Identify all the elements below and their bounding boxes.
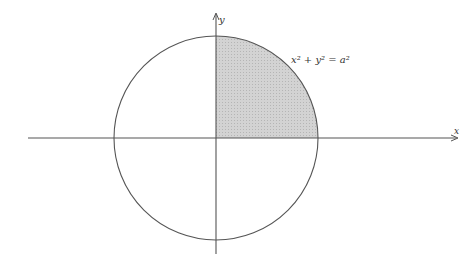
diagram-canvas: y x x² + y² = a² — [0, 0, 466, 264]
shaded-quadrant — [216, 36, 318, 138]
y-axis-label: y — [218, 14, 225, 25]
equation-label: x² + y² = a² — [291, 54, 350, 65]
x-axis-label: x — [454, 126, 459, 136]
